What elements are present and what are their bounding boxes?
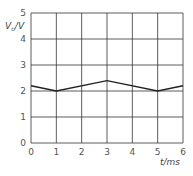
y-tick-label: 2: [20, 86, 26, 96]
x-tick-label: 2: [79, 147, 85, 157]
x-tick-label: 4: [129, 147, 135, 157]
x-tick-label: 6: [180, 147, 186, 157]
y-tick-label: 5: [20, 8, 26, 18]
line-chart: 012345 0123456 Vo/V t/ms: [0, 0, 193, 176]
y-tick-label: 4: [20, 34, 26, 44]
y-tick-label: 3: [20, 60, 26, 70]
y-axis-label: Vo/V: [5, 21, 25, 32]
x-axis-label: t/ms: [160, 157, 180, 167]
y-tick-label: 0: [20, 138, 26, 148]
x-tick-label: 5: [155, 147, 161, 157]
y-tick-label: 1: [20, 112, 26, 122]
x-tick-label: 3: [104, 147, 110, 157]
grid: [31, 13, 183, 143]
x-tick-label: 0: [28, 147, 34, 157]
x-tick-label: 1: [53, 147, 59, 157]
x-axis-ticks: 0123456: [28, 147, 186, 157]
